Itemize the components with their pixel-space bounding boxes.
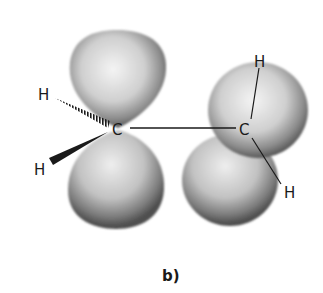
- h-left-bottom-label: H: [34, 161, 45, 179]
- orbital-diagram: C C H H H H b): [0, 0, 323, 293]
- h-left-top-label: H: [38, 86, 49, 104]
- carbon-left-label: C: [112, 121, 122, 139]
- figure-caption: b): [162, 267, 180, 285]
- carbon-right-label: C: [239, 121, 249, 139]
- h-right-top-label: H: [254, 53, 265, 71]
- h-right-bottom-label: H: [284, 184, 295, 202]
